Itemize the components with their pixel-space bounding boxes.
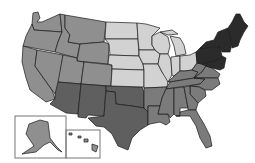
state-mt[interactable]	[65, 15, 106, 44]
state-fl[interactable]	[176, 110, 212, 148]
inset-hawaii	[66, 130, 100, 158]
state-ia[interactable]	[139, 50, 160, 64]
state-nd[interactable]	[105, 22, 138, 39]
state-ak[interactable]	[22, 120, 62, 154]
state-hi[interactable]	[69, 133, 98, 152]
state-co[interactable]	[81, 62, 112, 86]
state-wa[interactable]	[32, 12, 62, 32]
state-ks[interactable]	[111, 69, 144, 87]
inset-alaska	[15, 116, 66, 158]
region-northeast	[196, 14, 248, 70]
state-ne[interactable]	[108, 55, 144, 70]
us-choropleth-map	[0, 0, 255, 163]
state-sd[interactable]	[105, 39, 139, 56]
state-wy[interactable]	[77, 42, 109, 64]
state-nm[interactable]	[78, 84, 106, 118]
